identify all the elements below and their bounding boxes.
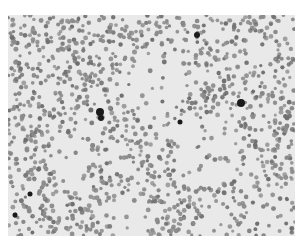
blood-cells-canvas [8, 15, 295, 236]
stained-cell [13, 213, 18, 218]
micrograph-image: Grayscale micrograph of a blood smear sh… [8, 15, 295, 236]
stained-cell [237, 99, 245, 107]
stained-cell [28, 192, 33, 197]
stained-cell [194, 32, 200, 38]
stained-cell [96, 108, 104, 116]
stained-cell [98, 115, 104, 121]
stained-cell [178, 120, 183, 125]
